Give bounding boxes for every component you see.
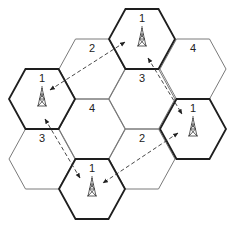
antenna-tower-icon	[188, 116, 198, 136]
antenna-tower-icon	[137, 26, 147, 46]
antenna-tower-icon	[87, 176, 97, 196]
cell-label: 2	[89, 42, 95, 54]
antenna-tower-icon	[37, 86, 47, 106]
cell-label: 2	[139, 132, 145, 144]
cell-label: 4	[190, 42, 196, 54]
cell-label: 1	[139, 12, 145, 24]
cell-label: 1	[39, 72, 45, 84]
cell-label: 4	[89, 102, 95, 114]
cell-label: 1	[89, 162, 95, 174]
cell-reuse-diagram: 1324113241	[0, 0, 235, 229]
cell-label: 1	[190, 102, 196, 114]
cell-layer	[9, 39, 226, 189]
cell-label: 3	[139, 72, 145, 84]
interference-arrow-left-to-bottom	[45, 119, 80, 178]
cell-label: 3	[39, 132, 45, 144]
interference-arrow-top-to-right	[148, 58, 182, 114]
